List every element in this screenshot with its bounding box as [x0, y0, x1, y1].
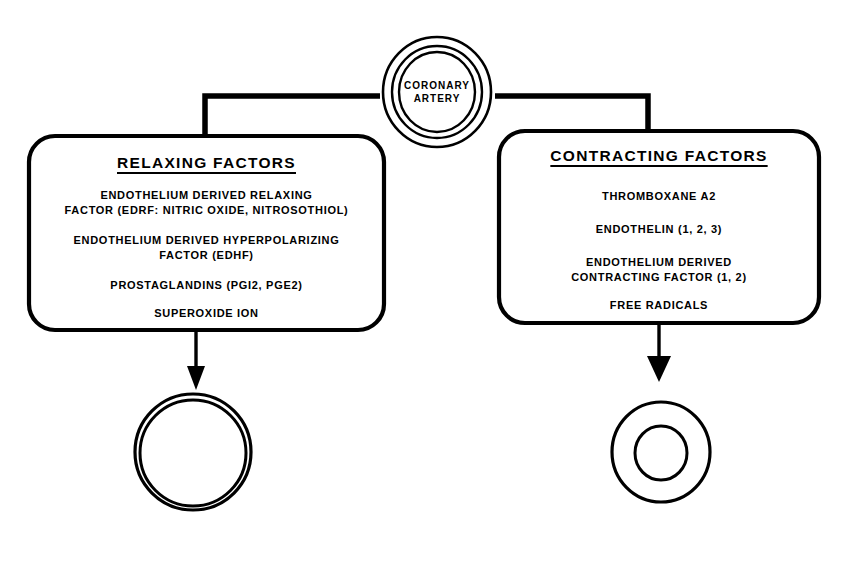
contracting-factors-item-line: ENDOTHELIN (1, 2, 3) [499, 222, 819, 237]
contracting-factors-item-line: ENDOTHELIUM DERIVED [499, 255, 819, 270]
relaxing-factors-item-line: ENDOTHELIUM DERIVED HYPERPOLARIZING [29, 233, 384, 248]
relaxing-factors-item-line: PROSTAGLANDINS (PGI2, PGE2) [29, 278, 384, 293]
contracting-factors-title: CONTRACTING FACTORS [499, 147, 819, 165]
diagram-canvas: CORONARY ARTERY RELAXING FACTORS ENDOTHE… [0, 0, 848, 573]
relaxing-factors-item-line: FACTOR (EDRF: NITRIC OXIDE, NITROSOTHIOL… [29, 203, 384, 218]
coronary-artery-label-line2: ARTERY [387, 92, 487, 105]
relaxing-factors-title: RELAXING FACTORS [29, 154, 384, 172]
connector-artery-to-relaxing [205, 96, 380, 137]
arrow-relaxing-to-outcome [187, 330, 205, 390]
constricted-vessel-icon [612, 402, 710, 502]
connector-artery-to-contracting [495, 96, 648, 133]
contracting-factors-panel[interactable]: CONTRACTING FACTORS THROMBOXANE A2 ENDOT… [499, 131, 819, 323]
contracting-factors-item-line: FREE RADICALS [499, 298, 819, 313]
contracting-factors-item-line: CONTRACTING FACTOR (1, 2) [499, 270, 819, 285]
relaxing-factors-item-line: FACTOR (EDHF) [29, 248, 384, 263]
relaxing-factors-item-line: ENDOTHELIUM DERIVED RELAXING [29, 188, 384, 203]
coronary-artery-label-line1: CORONARY [387, 79, 487, 92]
coronary-artery-label: CORONARY ARTERY [387, 79, 487, 105]
relaxing-factors-panel[interactable]: RELAXING FACTORS ENDOTHELIUM DERIVED REL… [29, 136, 384, 330]
relaxing-factors-item-line: SUPEROXIDE ION [29, 306, 384, 321]
arrow-contracting-to-outcome [647, 323, 671, 382]
dilated-vessel-icon [135, 394, 251, 510]
contracting-factors-item-line: THROMBOXANE A2 [499, 189, 819, 204]
